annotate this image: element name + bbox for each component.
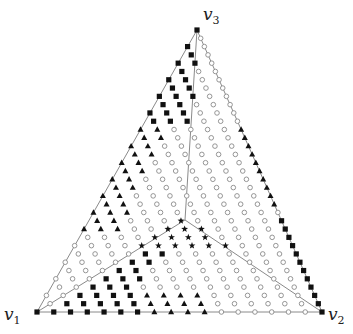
circle-marker [113,260,118,265]
circle-marker [238,202,243,207]
square-marker [98,301,103,306]
circle-marker [197,260,202,265]
square-marker [77,293,82,298]
square-marker [104,276,109,281]
circle-marker [175,210,180,215]
circle-marker [186,160,191,165]
circle-marker [264,260,269,265]
circle-marker [87,277,92,282]
circle-marker [162,218,167,223]
circle-marker [236,310,241,315]
circle-marker [227,177,232,182]
circle-marker [141,285,146,290]
circle-marker [299,301,304,306]
circle-marker [157,169,162,174]
triangle-marker [154,126,160,131]
circle-marker [224,94,229,99]
circle-marker [218,194,223,199]
circle-marker [138,202,143,207]
circle-marker [144,177,149,182]
triangle-marker [107,209,113,214]
circle-marker [238,277,243,282]
circle-marker [213,144,218,149]
triangle-marker [141,135,147,140]
circle-marker [57,285,62,290]
square-marker [286,235,291,240]
circle-marker [206,53,211,58]
circle-marker [285,268,290,273]
circle-marker [225,285,230,290]
circle-marker [207,169,212,174]
circle-marker [158,210,163,215]
circle-marker [188,277,193,282]
triangle-marker [138,126,144,131]
circle-marker [54,277,59,282]
circle-marker [231,111,236,116]
circle-marker [268,268,273,273]
circle-marker [220,235,225,240]
square-marker [279,218,284,223]
square-marker [118,309,123,314]
circle-marker [207,94,212,99]
square-marker [68,309,73,314]
vertex-label-v1: v1 [4,306,21,326]
circle-marker [201,268,206,273]
triangle-marker [271,201,277,206]
square-marker [111,293,116,298]
circle-marker [249,227,254,232]
square-marker [194,27,199,32]
circle-marker [212,293,217,298]
circle-marker [147,185,152,190]
circle-marker [220,86,225,91]
square-marker [135,309,140,314]
circle-marker [198,36,203,41]
square-marker [297,260,302,265]
circle-marker [251,194,256,199]
circle-marker [288,277,293,282]
triangle-marker [238,126,244,131]
circle-marker [266,301,271,306]
circle-marker [292,285,297,290]
square-marker [151,119,156,124]
circle-marker [210,252,215,257]
circle-marker [213,69,218,74]
circle-marker [229,293,234,298]
triangle-marker [130,184,136,189]
circle-marker [195,218,200,223]
circle-marker [215,301,220,306]
circle-marker [177,177,182,182]
circle-marker [193,252,198,257]
square-marker [187,85,192,90]
circle-marker [214,260,219,265]
circle-marker [74,285,79,290]
circle-marker [80,260,85,265]
circle-marker [192,210,197,215]
circle-marker [48,301,53,306]
circle-marker [164,260,169,265]
square-marker [107,285,112,290]
circle-marker [196,144,201,149]
triangle-marker [128,143,134,148]
circle-marker [93,252,98,257]
circle-marker [262,293,267,298]
star-marker [189,242,196,249]
circle-marker [177,252,182,257]
square-marker [137,276,142,281]
triangle-marker [148,301,154,306]
circle-marker [166,152,171,157]
square-marker [170,85,175,90]
square-marker [143,251,148,256]
circle-marker [184,194,189,199]
circle-marker [194,177,199,182]
circle-marker [150,268,155,273]
circle-marker [134,194,139,199]
triangle-marker [145,143,151,148]
circle-marker [192,136,197,141]
square-marker [128,293,133,298]
circle-marker [281,260,286,265]
triangle-marker [122,168,128,173]
circle-marker [198,111,203,116]
circle-marker [205,127,210,132]
circle-marker [245,293,250,298]
diagram-canvas: v1 v2 v3 [0,0,353,334]
